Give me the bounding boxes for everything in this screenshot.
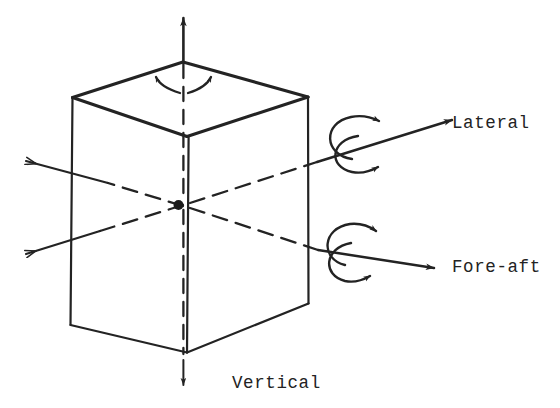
diagram-canvas: Lateral Fore-aft Vertical — [0, 0, 560, 408]
fore-aft-axis-dashed-right — [190, 208, 318, 250]
block-edge-right — [308, 97, 309, 304]
lateral-axis-dashed-right — [190, 162, 317, 203]
lateral-axis — [26, 120, 452, 254]
block-top-face — [73, 62, 309, 137]
block-edge-left — [71, 98, 73, 326]
lateral-axis-dashed-left — [100, 205, 183, 231]
axis-convention-diagram: Lateral Fore-aft Vertical — [0, 0, 560, 408]
fore-aft-axis — [26, 161, 434, 268]
axis-label-lateral: Lateral — [452, 113, 530, 133]
fore-aft-axis-dashed-left — [108, 183, 183, 206]
axis-label-fore-aft: Fore-aft — [452, 257, 541, 277]
origin-dot — [174, 200, 184, 210]
vertical-rotation-arrow-left — [156, 77, 180, 93]
vertical-rotation-arrow-right — [188, 77, 211, 93]
lateral-axis-negative — [26, 231, 100, 254]
fore-aft-rotation-arrow-lower — [329, 243, 370, 282]
block-edge-front — [187, 138, 189, 353]
axis-label-vertical: Vertical — [232, 373, 321, 393]
fore-aft-axis-negative — [26, 161, 108, 183]
fore-aft-axis-positive — [318, 250, 434, 268]
block-edge-bottom-left — [71, 325, 188, 353]
lateral-axis-positive — [317, 120, 452, 162]
block-edge-bottom-right — [187, 304, 309, 353]
block-bottom-edges — [71, 304, 309, 353]
